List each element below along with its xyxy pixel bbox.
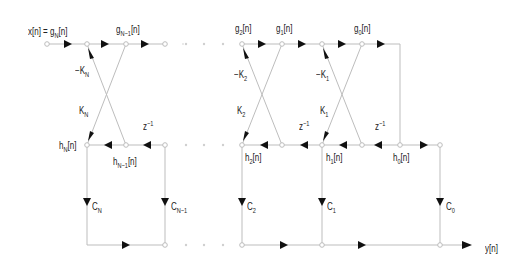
h2-label: h2[n] <box>245 153 261 165</box>
g1-label: g1[n] <box>276 24 292 36</box>
CN-1-label: CN−1 <box>171 202 187 214</box>
signal-flow-graph <box>0 0 522 269</box>
delay-label-N: z−1 <box>143 120 153 132</box>
g2-label: g2[n] <box>235 24 251 36</box>
C1-label: C1 <box>327 202 336 214</box>
neg-K1-label: −K1 <box>316 70 329 82</box>
delay-label-1: z−1 <box>375 120 385 132</box>
C0-label: C0 <box>446 202 455 214</box>
output-label: y[n] <box>485 244 498 254</box>
neg-KN-label: −KN <box>75 66 89 78</box>
delay-label-2: z−1 <box>299 120 309 132</box>
KN-label: KN <box>79 106 88 118</box>
hN-1-label: hN−1[n] <box>113 157 137 169</box>
CN-label: CN <box>92 202 102 214</box>
neg-K2-label: −K2 <box>234 70 247 82</box>
K1-label: K1 <box>320 106 328 118</box>
h0-label: h0[n] <box>393 153 409 165</box>
gN-1-label: gN−1[n] <box>116 25 140 37</box>
input-label: x[n] = gN[n] <box>28 27 67 39</box>
hN-label: hN[n] <box>59 141 76 153</box>
K2-label: K2 <box>237 106 245 118</box>
C2-label: C2 <box>247 202 256 214</box>
h1-label: h1[n] <box>326 153 342 165</box>
ellipsis-dots <box>182 43 224 246</box>
g0-label: g0[n] <box>354 24 370 36</box>
lattice-filter-diagram: x[n] = gN[n] gN−1[n] g2[n] g1[n] g0[n] −… <box>0 0 522 269</box>
